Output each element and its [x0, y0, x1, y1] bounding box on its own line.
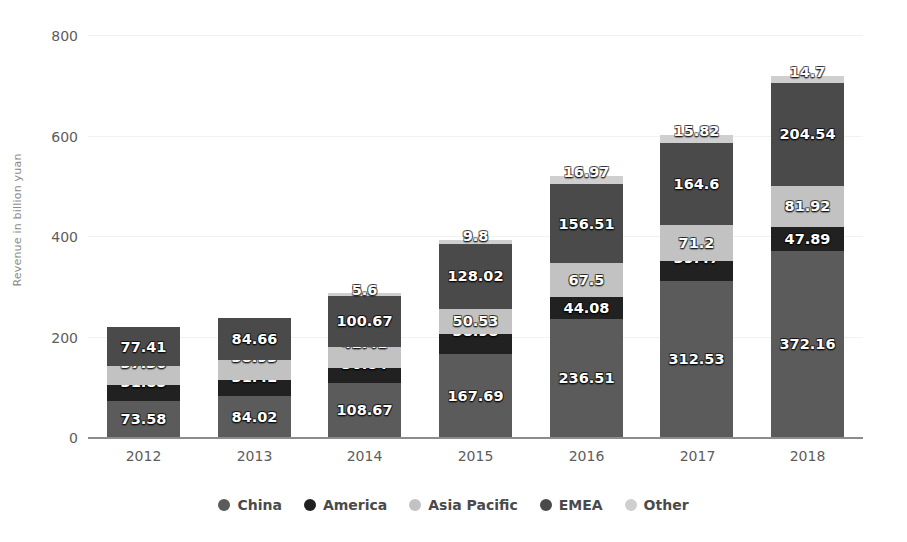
x-tick-label-2015: 2015	[420, 446, 531, 466]
legend-swatch-icon	[304, 499, 316, 511]
legend-item-asia-pacific[interactable]: Asia Pacific	[409, 498, 517, 512]
gridline	[88, 136, 863, 137]
bar-segment-america[interactable]: 30.84	[328, 368, 401, 383]
x-tick-label-2013: 2013	[199, 446, 310, 466]
bar-segment-china[interactable]: 108.67	[328, 383, 401, 438]
bar-segment-america[interactable]: 39.47	[660, 261, 733, 281]
bar-segment-emea[interactable]: 164.6	[660, 143, 733, 226]
bar-segment-other[interactable]: 5.6	[328, 293, 401, 296]
y-tick-label: 0	[38, 431, 78, 445]
bar-segment-other[interactable]: 9.8	[439, 240, 512, 245]
bar-segment-value: 167.69	[448, 389, 504, 404]
bar-segment-emea[interactable]: 128.02	[439, 244, 512, 308]
bar-segment-value: 44.08	[564, 301, 610, 316]
chart-legend: ChinaAmericaAsia PacificEMEAOther	[0, 492, 907, 518]
legend-item-america[interactable]: America	[304, 498, 387, 512]
x-tick-label-2014: 2014	[309, 446, 420, 466]
legend-item-emea[interactable]: EMEA	[540, 498, 603, 512]
gridline	[88, 35, 863, 36]
bar-segment-value: 14.7	[790, 65, 826, 80]
bar-segment-america[interactable]: 47.89	[771, 227, 844, 251]
x-tick-label-2018: 2018	[752, 446, 863, 466]
bar-segment-value: 164.6	[674, 177, 720, 192]
bar-segment-value: 128.02	[448, 269, 504, 284]
bar-segment-emea[interactable]: 84.66	[218, 318, 291, 361]
legend-swatch-icon	[218, 499, 230, 511]
legend-label: China	[237, 498, 281, 512]
bar-group-2014[interactable]: 108.6730.8442.41100.675.6	[328, 293, 401, 438]
y-tick-label: 600	[38, 130, 78, 144]
legend-swatch-icon	[625, 499, 637, 511]
y-axis-tick-labels: 0200400600800	[30, 36, 78, 438]
y-tick-label: 200	[38, 331, 78, 345]
bar-segment-asia-pacific[interactable]: 37.36	[107, 366, 180, 385]
bar-segment-asia-pacific[interactable]: 81.92	[771, 186, 844, 227]
legend-swatch-icon	[540, 499, 552, 511]
x-axis-line	[88, 437, 863, 439]
legend-item-china[interactable]: China	[218, 498, 281, 512]
bar-segment-other[interactable]: 16.97	[550, 176, 623, 185]
bar-segment-value: 84.02	[232, 410, 278, 425]
bar-segment-china[interactable]: 84.02	[218, 396, 291, 438]
bar-segment-emea[interactable]: 77.41	[107, 327, 180, 366]
bar-segment-asia-pacific[interactable]: 42.41	[328, 347, 401, 368]
bar-segment-america[interactable]: 44.08	[550, 297, 623, 319]
bar-segment-value: 81.92	[785, 199, 831, 214]
bar-segment-america[interactable]: 38.98	[439, 334, 512, 354]
legend-label: Other	[644, 498, 689, 512]
bar-segment-asia-pacific[interactable]: 67.5	[550, 263, 623, 297]
x-tick-label-2017: 2017	[642, 446, 753, 466]
bar-segment-value: 156.51	[559, 217, 615, 232]
bar-segment-value: 204.54	[780, 127, 836, 142]
legend-swatch-icon	[409, 499, 421, 511]
bar-segment-value: 50.53	[453, 314, 499, 329]
bar-group-2015[interactable]: 167.6938.9850.53128.029.8	[439, 240, 512, 438]
bar-segment-value: 71.2	[679, 236, 715, 251]
bar-segment-china[interactable]: 312.53	[660, 281, 733, 438]
bar-segment-china[interactable]: 73.58	[107, 401, 180, 438]
bar-segment-value: 16.97	[564, 165, 610, 180]
bar-segment-value: 67.5	[569, 273, 605, 288]
bar-segment-america[interactable]: 31.42	[218, 380, 291, 396]
bar-segment-emea[interactable]: 100.67	[328, 296, 401, 347]
bar-group-2012[interactable]: 73.5831.8537.3677.41	[107, 327, 180, 438]
x-tick-label-2016: 2016	[531, 446, 642, 466]
legend-label: EMEA	[559, 498, 603, 512]
plot-area: 73.5831.8537.3677.4184.0231.4238.9384.66…	[88, 36, 863, 438]
bar-segment-asia-pacific[interactable]: 71.2	[660, 225, 733, 261]
bar-segment-emea[interactable]: 156.51	[550, 184, 623, 263]
bar-segment-value: 5.6	[352, 283, 378, 298]
y-tick-label: 400	[38, 230, 78, 244]
x-axis-tick-labels: 2012201320142015201620172018	[88, 446, 863, 470]
bar-group-2016[interactable]: 236.5144.0867.5156.5116.97	[550, 176, 623, 438]
bar-segment-china[interactable]: 167.69	[439, 354, 512, 438]
bar-segment-value: 77.41	[121, 340, 167, 355]
bar-segment-other[interactable]: 14.7	[771, 76, 844, 83]
bar-segment-value: 108.67	[337, 403, 393, 418]
bar-group-2017[interactable]: 312.5339.4771.2164.615.82	[660, 135, 733, 438]
bar-segment-emea[interactable]: 204.54	[771, 83, 844, 186]
bar-segment-other[interactable]: 15.82	[660, 135, 733, 143]
y-tick-label: 800	[38, 29, 78, 43]
bar-segment-value: 312.53	[669, 352, 725, 367]
bar-segment-value: 84.66	[232, 332, 278, 347]
legend-item-other[interactable]: Other	[625, 498, 689, 512]
bar-group-2018[interactable]: 372.1647.8981.92204.5414.7	[771, 76, 844, 438]
legend-label: Asia Pacific	[428, 498, 517, 512]
bar-segment-value: 372.16	[780, 337, 836, 352]
bar-segment-america[interactable]: 31.85	[107, 385, 180, 401]
bar-segment-value: 15.82	[674, 124, 720, 139]
bar-group-2013[interactable]: 84.0231.4238.9384.66	[218, 318, 291, 438]
bar-segment-asia-pacific[interactable]: 50.53	[439, 309, 512, 334]
legend-label: America	[323, 498, 387, 512]
bar-segment-asia-pacific[interactable]: 38.93	[218, 360, 291, 380]
chart-figure: Revenue in billion yuan 0200400600800 73…	[0, 0, 907, 542]
bar-segment-value: 73.58	[121, 412, 167, 427]
bar-segment-value: 9.8	[463, 229, 489, 244]
bar-segment-value: 47.89	[785, 232, 831, 247]
bar-segment-china[interactable]: 236.51	[550, 319, 623, 438]
x-tick-label-2012: 2012	[88, 446, 199, 466]
bar-segment-china[interactable]: 372.16	[771, 251, 844, 438]
bar-segment-value: 100.67	[337, 314, 393, 329]
bar-segment-value: 236.51	[559, 371, 615, 386]
